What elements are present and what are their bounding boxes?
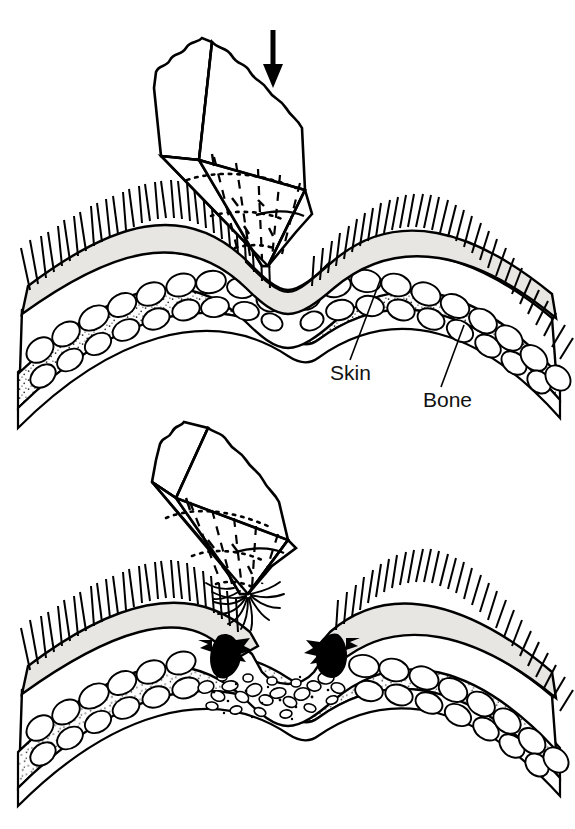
- skin-label: Skin: [330, 361, 371, 384]
- anatomical-impact-figure: Skin Bone: [0, 0, 575, 829]
- illustration-root: Skin Bone: [0, 0, 575, 829]
- bone-label: Bone: [423, 388, 472, 411]
